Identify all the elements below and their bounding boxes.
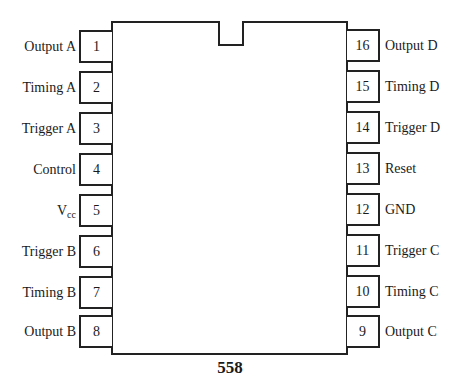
pin-label-timing-b: Timing B	[22, 276, 76, 309]
pin-number: 15	[356, 79, 370, 95]
pin-13: 13	[347, 152, 380, 185]
pin-number: 16	[356, 38, 370, 54]
pin-number: 10	[356, 284, 370, 300]
pin-label-output-b: Output B	[24, 315, 76, 348]
pin-label-timing-d: Timing D	[385, 70, 439, 103]
pin-label-gnd: GND	[385, 193, 415, 226]
pin-11: 11	[347, 234, 380, 267]
pin-2: 2	[79, 71, 112, 104]
pin-number: 9	[359, 324, 366, 340]
pin-number: 4	[93, 162, 100, 178]
pin-number: 12	[356, 202, 370, 218]
pin-label-output-c: Output C	[385, 315, 437, 348]
pin-label-trigger-b: Trigger B	[22, 235, 76, 268]
pin1-notch	[218, 21, 244, 46]
pin-14: 14	[347, 111, 380, 144]
pin-4: 4	[79, 153, 112, 186]
pin-number: 13	[356, 161, 370, 177]
pin-number: 3	[93, 121, 100, 137]
pin-number: 6	[93, 244, 100, 260]
pin-number: 14	[356, 120, 370, 136]
pin-label-control: Control	[33, 153, 76, 186]
pin-label-vcc: Vcc	[57, 194, 76, 227]
pin-10: 10	[347, 275, 380, 308]
pin-7: 7	[79, 276, 112, 309]
pin-3: 3	[79, 112, 112, 145]
pin-12: 12	[347, 193, 380, 226]
pin-8: 8	[79, 315, 112, 348]
pin-5: 5	[79, 194, 112, 227]
pin-number: 5	[93, 203, 100, 219]
pin-label-output-a: Output A	[24, 30, 76, 63]
pin-16: 16	[347, 29, 380, 62]
pin-number: 1	[93, 39, 100, 55]
pin-label-timing-a: Timing A	[22, 71, 76, 104]
pin-label-trigger-a: Trigger A	[22, 112, 76, 145]
pin-number: 8	[93, 324, 100, 340]
pin-label-output-d: Output D	[385, 29, 438, 62]
pin-15: 15	[347, 70, 380, 103]
pin-number: 11	[356, 243, 369, 259]
ic-body	[111, 21, 348, 355]
part-number-label: 558	[200, 358, 260, 378]
pin-6: 6	[79, 235, 112, 268]
pin-label-reset: Reset	[385, 152, 416, 185]
vcc-subscript: cc	[67, 209, 76, 220]
pin-1: 1	[79, 30, 112, 63]
pin-number: 2	[93, 80, 100, 96]
pin-label-trigger-c: Trigger C	[385, 234, 439, 267]
vcc-main: V	[57, 203, 67, 218]
pin-number: 7	[93, 285, 100, 301]
pin-label-timing-c: Timing C	[385, 275, 439, 308]
pin-9: 9	[347, 315, 380, 348]
pin-label-trigger-d: Trigger D	[385, 111, 440, 144]
